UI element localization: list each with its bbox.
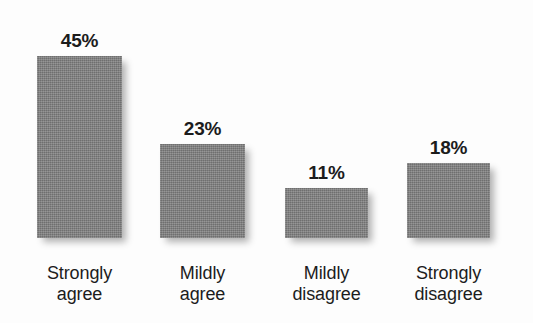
bar-column-strongly-disagree[interactable]: 18% [407, 163, 490, 238]
bar-category-line-2: agree [37, 284, 122, 305]
bar-category-line-2: agree [160, 284, 245, 305]
bar-category-line-1: Strongly [37, 263, 122, 284]
bar-category-label-strongly-agree: Strongly agree [37, 263, 122, 305]
bar-value-label: 23% [160, 119, 245, 138]
bar-category-line-2: disagree [276, 284, 377, 305]
bar-category-line-2: disagree [396, 284, 501, 305]
bar-category-label-mildly-disagree: Mildly disagree [276, 263, 377, 305]
bar-value-label: 45% [37, 31, 122, 50]
bar-category-line-1: Strongly [396, 263, 501, 284]
bar-rect-strongly-agree[interactable] [37, 56, 122, 238]
bar-rect-mildly-disagree[interactable] [285, 188, 368, 238]
bar-category-label-strongly-disagree: Strongly disagree [396, 263, 501, 305]
bar-column-mildly-agree[interactable]: 23% [160, 144, 245, 238]
bar-rect-strongly-disagree[interactable] [407, 163, 490, 238]
bar-value-label: 18% [407, 138, 490, 157]
bar-column-mildly-disagree[interactable]: 11% [285, 188, 368, 238]
bar-category-label-mildly-agree: Mildly agree [160, 263, 245, 305]
bar-value-label: 11% [285, 163, 368, 182]
bar-category-line-1: Mildly [276, 263, 377, 284]
bar-rect-mildly-agree[interactable] [160, 144, 245, 238]
bar-column-strongly-agree[interactable]: 45% [37, 56, 122, 238]
bar-category-line-1: Mildly [160, 263, 245, 284]
bar-chart: 45% Strongly agree 23% Mildly agree 11% … [0, 0, 533, 323]
plot-area: 45% Strongly agree 23% Mildly agree 11% … [0, 0, 533, 323]
